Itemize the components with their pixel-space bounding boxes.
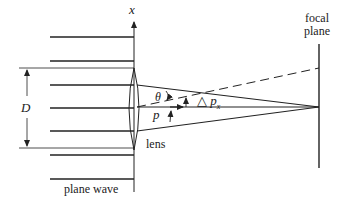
plane-wave-label: plane wave <box>64 183 118 195</box>
focal-plane-label-line1: focal <box>305 12 329 24</box>
deflected-ray-dashed <box>137 68 319 107</box>
diagram-canvas <box>0 0 348 201</box>
aperture-label: D <box>21 101 30 114</box>
p-tick-arrow <box>170 111 171 122</box>
focal-plane-label-line2: plane <box>304 25 330 37</box>
converging-rays <box>137 85 319 131</box>
delta-p-subscript: x <box>217 102 221 111</box>
theta-label: θ <box>155 91 161 103</box>
theta-arc-arrow <box>166 91 168 100</box>
delta-p-text: △ p <box>197 93 217 108</box>
x-axis-label: x <box>129 3 135 16</box>
delta-p-label: △ px <box>197 94 220 111</box>
plane-wave-lines <box>50 37 134 179</box>
momentum-label: p <box>153 108 160 121</box>
lens-label: lens <box>146 138 165 150</box>
